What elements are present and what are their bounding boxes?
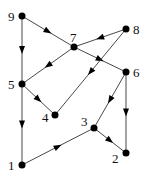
- node-label-7: 7: [70, 30, 77, 45]
- node-5: [19, 81, 26, 88]
- arrowhead-icon: [123, 109, 129, 117]
- node-label-3: 3: [81, 114, 88, 129]
- node-label-6: 6: [133, 65, 140, 80]
- arrowhead-icon: [96, 34, 105, 40]
- arrowhead-icon: [88, 67, 95, 75]
- node-label-4: 4: [42, 110, 49, 125]
- node-3: [91, 125, 98, 132]
- node-2: [123, 150, 130, 157]
- arrowhead-icon: [108, 95, 115, 103]
- arrowhead-icon: [45, 61, 53, 68]
- node-label-2: 2: [112, 151, 119, 166]
- node-9: [19, 13, 26, 20]
- node-4: [52, 112, 59, 119]
- arrowhead-icon: [19, 46, 25, 54]
- node-label-9: 9: [8, 9, 15, 24]
- node-label-8: 8: [133, 22, 140, 37]
- node-label-5: 5: [8, 77, 15, 92]
- node-1: [19, 162, 26, 169]
- arrowhead-icon: [105, 136, 113, 143]
- node-label-1: 1: [8, 158, 15, 173]
- arrowhead-icon: [19, 121, 25, 129]
- arrowhead-icon: [43, 27, 51, 34]
- directed-graph: 123456789: [0, 0, 148, 176]
- node-6: [123, 69, 130, 76]
- node-8: [123, 26, 130, 33]
- arrowhead-icon: [53, 145, 61, 151]
